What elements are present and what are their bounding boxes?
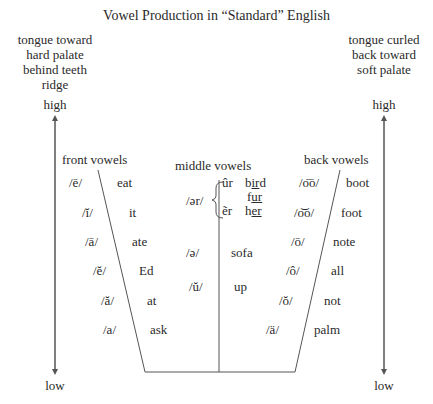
r-variant-symbol: ûr — [222, 175, 233, 190]
back-word: palm — [314, 322, 340, 337]
r-variant-word: her — [245, 203, 262, 218]
back-symbol: /o͞o/ — [299, 175, 319, 190]
back-symbol: /o͝o/ — [294, 205, 314, 220]
front-word: ate — [132, 234, 147, 249]
front-symbol: /ĕ/ — [93, 263, 106, 278]
front-symbol: /ā/ — [85, 234, 98, 249]
right-low-label: low — [364, 378, 404, 393]
back-word: foot — [341, 205, 362, 220]
left-note-line-1: tongue toward — [0, 32, 110, 47]
left-note-line-3: behind teeth — [0, 62, 110, 77]
back-word: boot — [346, 175, 369, 190]
middle-word: sofa — [231, 245, 253, 260]
r-colored-symbol: /ər/ — [186, 193, 203, 208]
back-word: all — [331, 263, 344, 278]
back-vowels-label: back vowels — [304, 152, 369, 167]
front-word: Ed — [139, 263, 153, 278]
right-note-line-2: back toward — [335, 47, 433, 62]
left-high-label: high — [35, 97, 75, 112]
back-symbol: /ä/ — [266, 322, 279, 337]
front-symbol: /a/ — [103, 322, 116, 337]
back-symbol: /ō/ — [291, 234, 305, 249]
front-symbol: /ă/ — [101, 293, 114, 308]
right-note-line-1: tongue curled — [335, 32, 433, 47]
r-variant-word: fur — [247, 189, 262, 204]
middle-symbol: /ə/ — [186, 245, 199, 260]
back-word: not — [324, 293, 341, 308]
right-high-label: high — [364, 97, 404, 112]
middle-symbol: /ŭ/ — [189, 279, 203, 294]
front-vowels-label: front vowels — [62, 152, 127, 167]
middle-vowels-label: middle vowels — [175, 158, 251, 173]
left-low-label: low — [35, 378, 75, 393]
r-variant-word: bird — [245, 175, 266, 190]
front-word: it — [129, 205, 136, 220]
r-variant-symbol: ẽr — [222, 203, 232, 218]
back-symbol: /ô/ — [286, 263, 300, 278]
back-symbol: /ŏ/ — [279, 293, 293, 308]
front-word: ask — [150, 322, 167, 337]
left-note-line-4: ridge — [0, 77, 110, 92]
front-symbol: /ē/ — [69, 175, 82, 190]
front-word: eat — [117, 175, 132, 190]
front-symbol: /ĭ/ — [82, 205, 93, 220]
front-word: at — [147, 293, 156, 308]
diagram-title: Vowel Production in “Standard” English — [0, 8, 433, 23]
back-word: note — [333, 234, 355, 249]
left-note-line-2: hard palate — [0, 47, 110, 62]
right-note-line-3: soft palate — [335, 62, 433, 77]
middle-word: up — [234, 279, 247, 294]
